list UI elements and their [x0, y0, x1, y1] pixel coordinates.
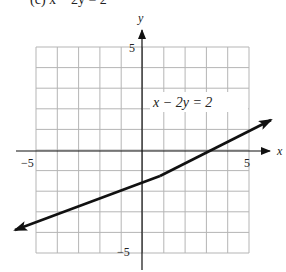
x-tick-min: −5 — [21, 156, 34, 170]
y-tick-min: −5 — [117, 245, 130, 259]
graph-line-lower — [15, 176, 160, 230]
x-axis-label: x — [276, 144, 283, 158]
graph-line — [160, 120, 271, 176]
equation-label: x − 2y = 2 — [152, 95, 212, 110]
y-axis-label: y — [137, 11, 144, 25]
x-tick-max: 5 — [244, 156, 250, 170]
coordinate-plane: x y 5 −5 −5 5 x − 2y = 2 — [0, 0, 286, 272]
y-tick-max: 5 — [129, 41, 135, 55]
